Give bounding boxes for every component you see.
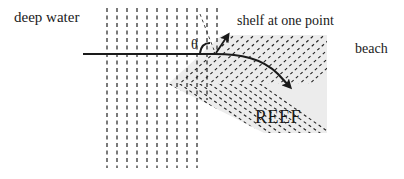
deep-water-label: deep water bbox=[14, 10, 79, 25]
shelf-label: shelf at one point bbox=[237, 14, 334, 28]
diagram-canvas bbox=[0, 0, 404, 179]
beach-label: beach bbox=[355, 42, 388, 56]
theta-label: θ bbox=[191, 38, 198, 52]
reef-label: REEF bbox=[255, 108, 301, 126]
